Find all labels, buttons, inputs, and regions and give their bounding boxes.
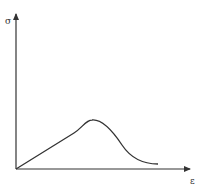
x-axis-label: ε: [190, 177, 195, 186]
stress-strain-curve: [16, 120, 158, 169]
chart-canvas: [0, 0, 208, 188]
y-axis-label: σ: [5, 17, 11, 26]
stress-strain-chart: σ ε: [0, 0, 208, 188]
